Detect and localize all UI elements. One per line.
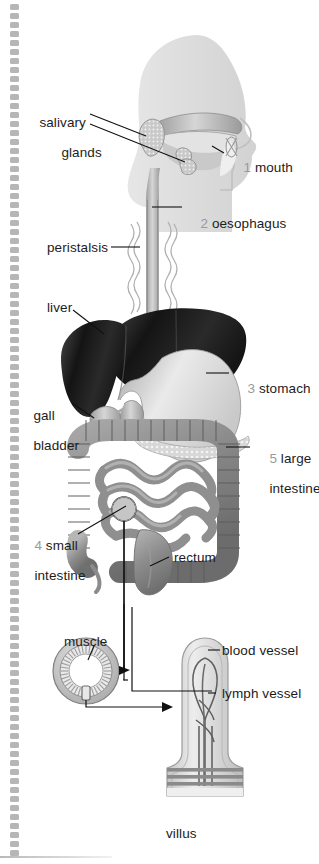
label-small-intestine: 4 small intestine xyxy=(19,523,86,598)
figure-canvas: salivary glands 1 mouth 2 oesophagus per… xyxy=(0,0,319,864)
oesophagus xyxy=(146,168,160,318)
label-villus: villus xyxy=(166,826,197,841)
label-lymph-vessel: lymph vessel xyxy=(222,686,301,701)
label-muscle: muscle xyxy=(64,634,107,649)
small-intestine-zoom-circle xyxy=(112,497,136,521)
label-peristalsis: peristalsis xyxy=(47,240,108,255)
label-gall-bladder: gall bladder xyxy=(18,393,79,468)
label-rectum: rectum xyxy=(174,550,216,565)
label-liver: liver xyxy=(47,300,72,315)
label-blood-vessel: blood vessel xyxy=(222,643,298,658)
label-large-intestine: 5 large intestine xyxy=(254,436,319,511)
label-oesophagus: 2 oesophagus xyxy=(185,201,286,246)
label-stomach: 3 stomach xyxy=(232,366,311,411)
rectum xyxy=(134,530,172,595)
label-mouth: 1 mouth xyxy=(228,145,293,190)
label-salivary-glands: salivary glands xyxy=(24,100,102,175)
bottom-divider xyxy=(0,856,112,858)
arrow-to-muscle xyxy=(119,604,130,675)
